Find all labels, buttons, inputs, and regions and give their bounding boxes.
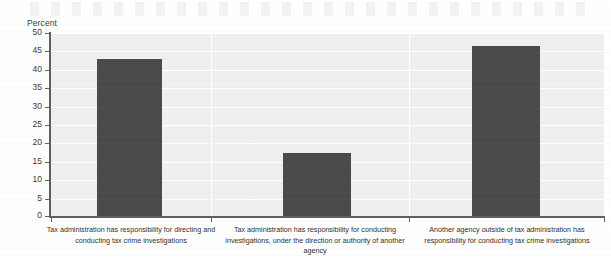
x-tick-mark — [51, 218, 52, 222]
y-tick-mark — [45, 70, 50, 71]
category-label-3-line-1: Another agency outside of tax administra… — [409, 225, 605, 236]
y-tick-label: 45 — [0, 46, 42, 55]
scan-artifact-top — [30, 2, 590, 16]
plot-area — [51, 33, 604, 217]
category-divider — [211, 33, 212, 217]
y-tick-mark — [45, 88, 50, 89]
y-tick-label: 20 — [0, 138, 42, 147]
y-tick-label: 35 — [0, 83, 42, 92]
category-label-1-line-1: Tax administration has responsibility fo… — [36, 225, 226, 236]
category-label-1-line-2: conducting tax crime investigations — [36, 236, 226, 247]
x-tick-mark — [211, 218, 212, 222]
y-tick-label: 50 — [0, 28, 42, 37]
category-label-3: Another agency outside of tax administra… — [409, 225, 605, 246]
y-tick-label: 0 — [0, 211, 42, 220]
x-tick-mark — [604, 218, 605, 222]
gridline — [51, 33, 604, 34]
y-tick-mark — [45, 216, 50, 217]
y-tick-label: 25 — [0, 120, 42, 129]
y-axis-title: Percent — [27, 18, 57, 28]
bar-category-1 — [97, 59, 162, 217]
y-tick-mark — [45, 33, 50, 34]
category-label-2-line-1: Tax administration has responsibility fo… — [218, 225, 412, 236]
y-tick-mark — [45, 162, 50, 163]
y-tick-mark — [45, 143, 50, 144]
y-tick-mark — [45, 125, 50, 126]
category-label-2-line-2: investigations, under the direction or a… — [218, 236, 412, 247]
category-label-1: Tax administration has responsibility fo… — [36, 225, 226, 246]
y-tick-mark — [45, 107, 50, 108]
category-divider — [409, 33, 410, 217]
y-tick-mark — [45, 180, 50, 181]
category-label-2: Tax administration has responsibility fo… — [218, 225, 412, 257]
y-tick-label: 10 — [0, 175, 42, 184]
y-tick-label: 5 — [0, 194, 42, 203]
y-tick-label: 15 — [0, 157, 42, 166]
bar-chart: Percent 50 45 40 35 30 25 20 — [0, 0, 611, 263]
category-label-2-line-3: agency — [218, 246, 412, 257]
bar-category-2 — [283, 153, 351, 217]
bar-category-3 — [472, 46, 540, 217]
y-tick-label: 30 — [0, 102, 42, 111]
x-tick-mark — [409, 218, 410, 222]
y-tick-mark — [45, 199, 50, 200]
y-tick-mark — [45, 51, 50, 52]
y-tick-label: 40 — [0, 65, 42, 74]
category-label-3-line-2: responsibility for conducting tax crime … — [409, 236, 605, 247]
x-axis-line — [49, 216, 605, 218]
